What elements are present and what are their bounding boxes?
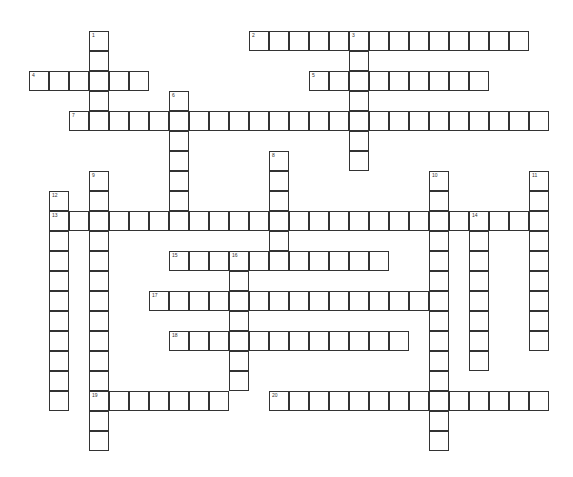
crossword-cell[interactable] [409,211,429,231]
crossword-cell[interactable] [449,391,469,411]
crossword-cell[interactable] [49,311,69,331]
crossword-cell[interactable] [189,291,209,311]
crossword-cell[interactable] [309,251,329,271]
crossword-cell[interactable] [169,191,189,211]
crossword-cell[interactable] [229,211,249,231]
crossword-cell[interactable]: 6 [169,91,189,111]
crossword-cell[interactable] [409,291,429,311]
crossword-cell[interactable] [389,211,409,231]
crossword-cell[interactable] [129,391,149,411]
crossword-cell[interactable] [429,231,449,251]
crossword-cell[interactable] [469,111,489,131]
crossword-cell[interactable] [389,31,409,51]
crossword-cell[interactable] [249,291,269,311]
crossword-cell[interactable] [389,71,409,91]
crossword-cell[interactable] [329,31,349,51]
crossword-cell[interactable]: 1 [89,31,109,51]
crossword-cell[interactable] [109,111,129,131]
crossword-cell[interactable]: 17 [149,291,169,311]
crossword-cell[interactable] [169,291,189,311]
crossword-cell[interactable] [429,191,449,211]
crossword-cell[interactable]: 16 [229,251,249,271]
crossword-cell[interactable] [109,391,129,411]
crossword-cell[interactable] [169,391,189,411]
crossword-cell[interactable]: 13 [49,211,69,231]
crossword-cell[interactable] [229,351,249,371]
crossword-cell[interactable] [369,71,389,91]
crossword-cell[interactable] [89,351,109,371]
crossword-cell[interactable] [229,311,249,331]
crossword-cell[interactable] [509,111,529,131]
crossword-cell[interactable] [309,111,329,131]
crossword-cell[interactable] [429,331,449,351]
crossword-cell[interactable] [469,71,489,91]
crossword-cell[interactable] [449,31,469,51]
crossword-cell[interactable] [89,291,109,311]
crossword-cell[interactable] [269,31,289,51]
crossword-cell[interactable] [429,111,449,131]
crossword-cell[interactable] [89,271,109,291]
crossword-cell[interactable] [129,71,149,91]
crossword-cell[interactable] [249,331,269,351]
crossword-cell[interactable] [89,331,109,351]
crossword-cell[interactable] [509,391,529,411]
crossword-cell[interactable] [89,231,109,251]
crossword-cell[interactable] [289,251,309,271]
crossword-cell[interactable] [469,331,489,351]
crossword-cell[interactable] [89,111,109,131]
crossword-cell[interactable] [309,331,329,351]
crossword-cell[interactable] [89,431,109,451]
crossword-cell[interactable]: 3 [349,31,369,51]
crossword-cell[interactable] [289,111,309,131]
crossword-cell[interactable] [389,331,409,351]
crossword-cell[interactable] [529,251,549,271]
crossword-cell[interactable] [489,211,509,231]
crossword-cell[interactable] [489,111,509,131]
crossword-cell[interactable] [49,231,69,251]
crossword-cell[interactable] [189,211,209,231]
crossword-cell[interactable]: 10 [429,171,449,191]
crossword-cell[interactable] [89,211,109,231]
crossword-cell[interactable] [269,191,289,211]
crossword-cell[interactable] [369,31,389,51]
crossword-cell[interactable] [409,391,429,411]
crossword-cell[interactable] [429,211,449,231]
crossword-cell[interactable] [369,111,389,131]
crossword-cell[interactable] [149,391,169,411]
crossword-cell[interactable] [169,151,189,171]
crossword-cell[interactable] [209,211,229,231]
crossword-cell[interactable] [449,71,469,91]
crossword-cell[interactable] [509,31,529,51]
crossword-cell[interactable] [269,171,289,191]
crossword-cell[interactable] [429,71,449,91]
crossword-cell[interactable]: 9 [89,171,109,191]
crossword-cell[interactable] [429,311,449,331]
crossword-cell[interactable] [449,211,469,231]
crossword-cell[interactable] [409,71,429,91]
crossword-cell[interactable] [109,71,129,91]
crossword-cell[interactable]: 15 [169,251,189,271]
crossword-cell[interactable] [469,351,489,371]
crossword-cell[interactable] [329,71,349,91]
crossword-cell[interactable] [369,251,389,271]
crossword-cell[interactable] [189,251,209,271]
crossword-cell[interactable] [429,271,449,291]
crossword-cell[interactable] [349,391,369,411]
crossword-cell[interactable] [349,251,369,271]
crossword-cell[interactable] [329,251,349,271]
crossword-cell[interactable] [49,331,69,351]
crossword-cell[interactable] [269,251,289,271]
crossword-cell[interactable] [269,231,289,251]
crossword-cell[interactable] [209,331,229,351]
crossword-cell[interactable] [269,211,289,231]
crossword-cell[interactable] [409,31,429,51]
crossword-cell[interactable] [329,111,349,131]
crossword-cell[interactable] [189,111,209,131]
crossword-cell[interactable] [309,211,329,231]
crossword-cell[interactable] [309,391,329,411]
crossword-cell[interactable] [209,291,229,311]
crossword-cell[interactable] [529,271,549,291]
crossword-cell[interactable] [369,391,389,411]
crossword-cell[interactable] [329,211,349,231]
crossword-cell[interactable] [69,211,89,231]
